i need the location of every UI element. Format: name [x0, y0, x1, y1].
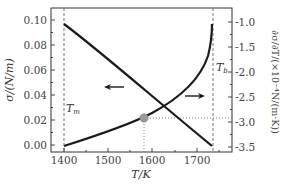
- svg-text:-3.0: -3.0: [235, 116, 255, 128]
- y-right-axis-title: ∂σ/∂T/(×10⁻⁴N/(m·K)): [270, 30, 281, 133]
- svg-text:1700: 1700: [184, 154, 211, 166]
- y-left-axis-title: σ/(N/m): [3, 58, 16, 102]
- y-right-ticks: [228, 22, 232, 147]
- svg-text:0.00: 0.00: [24, 139, 47, 151]
- svg-text:-2.5: -2.5: [235, 91, 255, 103]
- svg-text:1400: 1400: [51, 154, 78, 166]
- svg-text:-2.0: -2.0: [235, 66, 255, 78]
- y-right-tick-labels: -1.0 -1.5 -2.0 -2.5 -3.0 -3.5: [235, 16, 255, 153]
- svg-text:-3.5: -3.5: [235, 141, 255, 153]
- svg-text:0.06: 0.06: [24, 64, 48, 76]
- svg-text:0.10: 0.10: [24, 14, 47, 26]
- tb-label: Tb: [216, 61, 228, 75]
- x-axis-ticks: [64, 148, 219, 152]
- svg-text:1500: 1500: [95, 154, 122, 166]
- svg-text:1600: 1600: [139, 154, 166, 166]
- svg-text:-1.5: -1.5: [235, 41, 255, 53]
- svg-text:0.04: 0.04: [24, 89, 48, 101]
- svg-text:-1.0: -1.0: [235, 16, 255, 28]
- left-arrow-icon: [104, 84, 124, 90]
- intersection-marker: [140, 114, 148, 122]
- right-arrow-icon: [185, 93, 205, 99]
- tm-label: Tm: [66, 102, 80, 116]
- y-left-ticks: [51, 20, 55, 145]
- x-tick-labels: 1400 1500 1600 1700: [51, 154, 211, 166]
- plot-frame: [51, 8, 232, 152]
- svg-text:0.08: 0.08: [24, 39, 47, 51]
- x-axis-title: T/K: [131, 168, 151, 181]
- svg-text:0.02: 0.02: [24, 114, 47, 126]
- chart: Tm Tb 1400 1500 1600 1700 0.00 0.02 0.04…: [0, 0, 281, 187]
- y-left-tick-labels: 0.00 0.02 0.04 0.06 0.08 0.10: [24, 14, 48, 151]
